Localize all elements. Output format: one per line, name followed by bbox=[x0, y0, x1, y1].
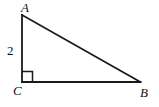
vertex-label-c: C bbox=[13, 84, 22, 97]
vertex-label-a: A bbox=[21, 1, 29, 14]
right-angle-marker-icon bbox=[22, 72, 33, 83]
side-ab-line bbox=[22, 15, 141, 82]
triangle-drawing bbox=[0, 0, 159, 107]
side-length-label-ac: 2 bbox=[7, 44, 14, 57]
vertex-label-b: B bbox=[140, 86, 148, 99]
geometry-figure: A C B 2 bbox=[0, 0, 159, 107]
